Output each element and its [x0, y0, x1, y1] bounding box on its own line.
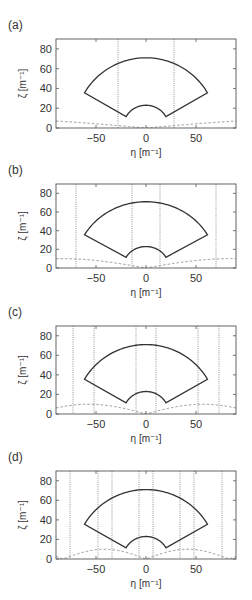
- y-axis-label: ζ [m⁻¹]: [17, 500, 29, 530]
- y-tick-label: 40: [40, 369, 52, 381]
- panel-b: (b)020406080−50050ζ [m⁻¹]η [m⁻¹]: [8, 163, 236, 298]
- plot-frame: [56, 39, 236, 128]
- figure: (a)020406080−50050ζ [m⁻¹]η [m⁻¹](b)02040…: [0, 0, 252, 600]
- y-tick-label: 40: [40, 82, 52, 94]
- y-tick-label: 20: [40, 102, 52, 114]
- x-axis-label: η [m⁻¹]: [131, 433, 162, 444]
- x-axis-label: η [m⁻¹]: [131, 578, 162, 589]
- y-tick-label: 0: [46, 553, 52, 565]
- x-tick-label: 0: [143, 418, 149, 430]
- y-tick-label: 80: [40, 475, 52, 487]
- y-axis-label: ζ [m⁻¹]: [17, 355, 29, 385]
- x-tick-label: 0: [143, 272, 149, 284]
- y-axis-label: ζ [m⁻¹]: [17, 68, 29, 98]
- x-tick-label: −50: [87, 132, 106, 144]
- y-axis-label: ζ [m⁻¹]: [17, 211, 29, 241]
- y-tick-label: 20: [40, 243, 52, 255]
- x-tick-label: 0: [143, 132, 149, 144]
- fan-region: [85, 345, 208, 403]
- y-tick-label: 0: [46, 262, 52, 274]
- x-axis-label: η [m⁻¹]: [131, 147, 162, 158]
- x-tick-label: −50: [87, 563, 106, 575]
- x-tick-label: 50: [190, 132, 202, 144]
- y-tick-label: 20: [40, 533, 52, 545]
- y-tick-label: 80: [40, 330, 52, 342]
- x-tick-label: 50: [190, 418, 202, 430]
- plot-frame: [56, 184, 236, 268]
- x-tick-label: 0: [143, 563, 149, 575]
- plot-frame: [56, 326, 236, 414]
- y-tick-label: 0: [46, 408, 52, 420]
- y-tick-label: 0: [46, 122, 52, 134]
- panel-label: (b): [8, 163, 23, 177]
- y-tick-label: 60: [40, 206, 52, 218]
- y-tick-label: 60: [40, 494, 52, 506]
- x-axis-label: η [m⁻¹]: [131, 287, 162, 298]
- x-tick-label: 50: [190, 563, 202, 575]
- y-tick-label: 20: [40, 388, 52, 400]
- x-tick-label: −50: [87, 272, 106, 284]
- y-tick-label: 80: [40, 43, 52, 55]
- panel-label: (c): [8, 305, 22, 319]
- panel-c: (c)020406080−50050ζ [m⁻¹]η [m⁻¹]: [8, 305, 236, 444]
- fan-region: [85, 490, 208, 548]
- panel-label: (d): [8, 450, 23, 464]
- panel-d: (d)020406080−50050ζ [m⁻¹]η [m⁻¹]: [8, 450, 236, 589]
- x-tick-label: 50: [190, 272, 202, 284]
- plot-frame: [56, 471, 236, 559]
- panel-label: (a): [8, 18, 23, 32]
- y-tick-label: 60: [40, 63, 52, 75]
- y-tick-label: 80: [40, 187, 52, 199]
- panel-a: (a)020406080−50050ζ [m⁻¹]η [m⁻¹]: [8, 18, 236, 158]
- fan-region: [85, 58, 208, 117]
- fan-region: [85, 202, 208, 258]
- y-tick-label: 60: [40, 349, 52, 361]
- y-tick-label: 40: [40, 514, 52, 526]
- y-tick-label: 40: [40, 225, 52, 237]
- x-tick-label: −50: [87, 418, 106, 430]
